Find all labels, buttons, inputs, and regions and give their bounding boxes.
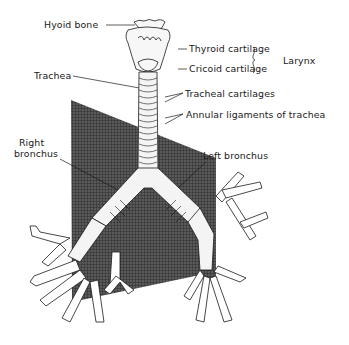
label-annular-ligaments: Annular ligaments of trachea [186,109,325,120]
anatomy-diagram [0,0,349,345]
larynx-illustration [126,20,170,73]
label-left-bronchus: Left bronchus [203,150,268,161]
label-right-bronchus-line1: Right [19,137,44,148]
label-right-bronchus-line2: bronchus [14,148,58,159]
trachea-illustration [138,72,158,170]
label-hyoid-bone: Hyoid bone [44,19,98,30]
label-thyroid-cartilage: Thyroid cartilage [189,43,270,54]
label-tracheal-cartilages: Tracheal cartilages [185,88,275,99]
label-cricoid-cartilage: Cricoid cartilage [189,63,267,74]
label-trachea: Trachea [34,70,71,81]
label-larynx: Larynx [283,55,315,66]
